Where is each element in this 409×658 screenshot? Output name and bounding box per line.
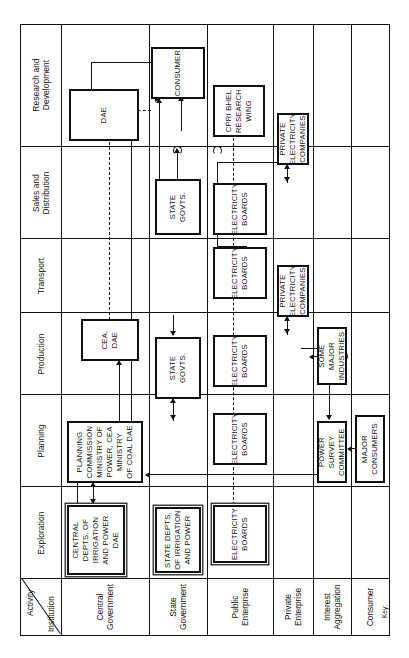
edge-arrowhead — [174, 148, 180, 153]
edge-arrowhead — [309, 354, 314, 360]
column-header-label: Sales and Distribution — [30, 171, 51, 214]
edge-arrowhead — [284, 329, 290, 334]
node-pec-sales[interactable]: PRIVATE ELECTRICITY COMPANIES — [277, 113, 309, 165]
edge-consumer-cpri — [91, 62, 161, 63]
grid-hline — [149, 25, 150, 635]
edge-arrowhead — [145, 472, 150, 478]
node-eb-transport[interactable]: ELECTRICITY BOARDS — [213, 247, 267, 299]
node-power-survey[interactable]: POWER SURVEY COMMITTEE — [317, 421, 347, 483]
edge-arrowhead — [326, 415, 332, 420]
edge-cea-dae-dashed — [109, 117, 110, 335]
node-label: PRIVATE ELECTRICITY COMPANIES — [278, 265, 308, 317]
node-cea-dae[interactable]: CEA, DAE — [81, 319, 139, 361]
corner-activity-label: Activity — [25, 589, 35, 616]
node-label: CONSUMER — [173, 50, 183, 96]
corner-cell: Activity Institution — [21, 579, 61, 635]
node-label: ELECTRICITY BOARDS — [230, 335, 250, 387]
node-planning-commission[interactable]: PLANNING COMMISSION MINISTRY OF POWER, C… — [67, 421, 143, 483]
grid-vline — [21, 312, 389, 313]
column-header-label: Exploration — [35, 512, 46, 555]
node-label: ELECTRICITY BOARDS — [230, 183, 250, 235]
node-pec-production[interactable]: PRIVATE ELECTRICITY COMPANIES — [277, 265, 309, 317]
row-header-label: Private Enterprise — [282, 588, 303, 626]
node-state-depts[interactable]: STATE DEPTS. OF IRRIGATION AND POWER — [155, 507, 201, 573]
node-label: STATE GOVTS. — [168, 340, 188, 396]
column-header-research: Research and Development — [21, 23, 61, 147]
column-header-label: Production — [35, 333, 46, 374]
edge-arrowhead — [347, 446, 352, 452]
node-label: POWER SURVEY COMMITTEE — [317, 424, 347, 480]
key-label: Key: — [381, 605, 388, 618]
edge-pecsales-consumer — [181, 97, 182, 131]
node-consumer-sales[interactable]: CONSUMER — [151, 47, 205, 99]
column-header-sales: Sales and Distribution — [21, 147, 61, 239]
edge-stategovtssales-ebsales — [177, 151, 178, 179]
edge-planning-cea — [119, 361, 120, 421]
edge-ebtransport-feed — [217, 162, 279, 163]
node-eb-sales[interactable]: ELECTRICITY BOARDS — [213, 183, 267, 235]
node-label: ELECTRICITY BOARDS — [230, 247, 250, 299]
node-label: MAJOR CONSUMERS — [360, 418, 380, 480]
column-header-planning: Planning — [21, 395, 61, 487]
grid-hline — [351, 25, 352, 635]
edge-planning-dae — [131, 121, 132, 421]
column-header-production: Production — [21, 313, 61, 395]
column-header-exploration: Exploration — [21, 487, 61, 579]
node-some-major-industries[interactable]: SOME MAJOR INDUSTRIES — [317, 327, 347, 385]
node-label: PLANNING COMMISSION MINISTRY OF POWER, C… — [75, 424, 134, 480]
node-label: ELECTRICITY BOARDS — [230, 413, 250, 465]
grid-vline — [21, 146, 389, 147]
grid-vline — [21, 486, 389, 487]
diagram-page: Activity Institution Exploration Plannin… — [0, 0, 409, 658]
edge-arrowhead — [284, 177, 290, 182]
row-header-label: Central Government — [94, 584, 115, 630]
grid-hline — [273, 25, 274, 635]
node-label: STATE GOVTS. — [168, 182, 188, 232]
wire-hop-icon — [213, 146, 222, 155]
node-dae[interactable]: DAE — [69, 89, 139, 141]
column-header-label: Transport — [35, 258, 46, 294]
grid-hline — [207, 25, 208, 635]
node-state-govts-sales[interactable]: STATE GOVTS. — [155, 179, 201, 235]
grid-vline — [21, 394, 389, 395]
node-label: PRIVATE ELECTRICITY COMPANIES — [278, 113, 308, 165]
corner-institution-label: Institution — [46, 596, 56, 632]
edge-powersurvey-planning — [149, 474, 333, 475]
edge-ebsales-consumer — [159, 99, 160, 183]
row-header-private-enterprise: Private Enterprise — [273, 579, 313, 635]
node-eb-production[interactable]: ELECTRICITY BOARDS — [213, 335, 267, 387]
edge-arrowhead — [90, 499, 96, 504]
row-header-label: State Government — [167, 584, 188, 630]
edge-arrowhead — [170, 415, 176, 420]
node-cpri-bhel[interactable]: CPRI BHEL RESEARCH WING — [213, 85, 265, 137]
node-label: STATE DEPTS. OF IRRIGATION AND POWER — [163, 510, 193, 570]
row-header-label: Public Enterprise — [229, 588, 250, 626]
node-major-consumers[interactable]: MAJOR CONSUMERS — [355, 415, 385, 483]
row-header-label: Consumer — [364, 588, 375, 627]
row-header-central-government: Central Government — [61, 579, 149, 635]
rotated-canvas: Activity Institution Exploration Plannin… — [12, 14, 398, 644]
row-header-label: Interest Aggregation — [321, 584, 342, 629]
row-header-public-enterprise: Public Enterprise — [207, 579, 273, 635]
node-eb-exploration[interactable]: ELECTRICITY BOARDS — [213, 505, 267, 563]
node-label: DAE — [99, 107, 109, 123]
node-label: SOME MAJOR INDUSTRIES — [317, 330, 347, 382]
node-eb-planning[interactable]: ELECTRICITY BOARDS — [213, 413, 267, 465]
column-header-label: Planning — [35, 424, 46, 457]
node-central-depts[interactable]: CENTRAL DEPTS. OF IRRIGATION AND POWER D… — [67, 505, 125, 575]
node-label: ELECTRICITY BOARDS — [230, 508, 250, 560]
column-header-label: Research and Development — [30, 58, 51, 111]
edge-arrowhead — [170, 331, 176, 336]
column-header-transport: Transport — [21, 239, 61, 313]
matrix-grid: Activity Institution Exploration Plannin… — [20, 24, 390, 636]
grid-vline — [21, 238, 389, 239]
grid-hline — [313, 25, 314, 635]
row-header-interest-aggregation: Interest Aggregation — [313, 579, 351, 635]
node-state-govts-planning[interactable]: STATE GOVTS. — [155, 337, 201, 399]
row-header-state-government: State Government — [149, 579, 207, 635]
node-label: CPRI BHEL RESEARCH WING — [224, 89, 254, 133]
node-label: CEA, DAE — [100, 322, 120, 358]
node-label: CENTRAL DEPTS. OF IRRIGATION AND POWER D… — [71, 515, 120, 564]
